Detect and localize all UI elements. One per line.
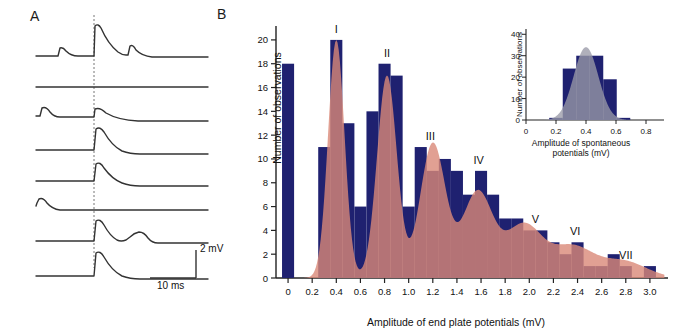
main-xtick-label: 3.0 [643, 286, 656, 297]
inset-xtick-label: 0.2 [550, 127, 562, 136]
main-xtick-label: 1.6 [474, 286, 487, 297]
main-ytick-label: 8 [263, 177, 268, 188]
inset-fit-curve [544, 47, 631, 120]
inset-xtick-label: 0.8 [640, 127, 652, 136]
main-xtick-label: 0.4 [330, 286, 343, 297]
inset-xtick-label: 0.6 [610, 127, 622, 136]
main-xtick-label: 0.8 [378, 286, 391, 297]
main-ytick-label: 2 [263, 249, 268, 260]
inset-xtick-label: 0 [524, 127, 529, 136]
scale-bar-group [150, 250, 196, 278]
main-xtick-label: 0.6 [354, 286, 367, 297]
main-xtick-label: 2.8 [619, 286, 632, 297]
main-ytick-label: 16 [257, 82, 268, 93]
scale-label-voltage: 2 mV [200, 243, 223, 254]
main-ytick-label: 0 [263, 273, 268, 284]
main-xtick-label: 0 [285, 286, 290, 297]
main-peak-label: V [532, 213, 540, 225]
main-ytick-label: 14 [257, 106, 268, 117]
main-xtick-label: 1.8 [499, 286, 512, 297]
main-xtick-label: 1.0 [402, 286, 415, 297]
main-ytick-label: 6 [263, 201, 268, 212]
inset-ytick-label: 10 [511, 95, 520, 104]
main-bar-failures [282, 64, 294, 278]
inset-xtick-label: 0.4 [580, 127, 592, 136]
panel-a-traces [18, 10, 228, 310]
inset-xaxis-title-line1: Amplitude of spontaneous [532, 138, 630, 148]
inset-histogram-svg: 01020304000.20.40.60.8 [504, 22, 669, 142]
inset-xaxis-title: Amplitude of spontaneous potentials (mV) [486, 138, 674, 158]
main-peak-label: I [335, 23, 338, 35]
main-xtick-label: 1.2 [426, 286, 439, 297]
main-peak-label: VI [570, 225, 580, 237]
main-xtick-label: 1.4 [450, 286, 463, 297]
trace-5 [36, 163, 208, 186]
trace-7 [36, 220, 208, 243]
main-peak-label: II [384, 47, 390, 59]
scale-label-time: 10 ms [157, 280, 184, 291]
main-xtick-label: 2.6 [595, 286, 608, 297]
main-ytick-label: 10 [257, 153, 268, 164]
main-yaxis-title: Number of observations [271, 18, 283, 198]
main-ytick-label: 20 [257, 34, 268, 45]
main-xtick-label: 2.2 [547, 286, 560, 297]
trace-3 [36, 108, 208, 122]
inset-ytick-label: 40 [511, 30, 520, 39]
main-xaxis-title: Amplitude of end plate potentials (mV) [246, 316, 666, 328]
inset-chart-area: Number of observations 01020304000.20.40… [492, 22, 672, 142]
main-ytick-label: 4 [263, 225, 268, 236]
trace-1 [36, 25, 208, 57]
main-peak-label: VII [619, 249, 632, 261]
inset-xaxis-title-line2: potentials (mV) [552, 148, 609, 158]
inset-ytick-label: 30 [511, 52, 520, 61]
main-xtick-label: 2.0 [523, 286, 536, 297]
trace-8 [36, 252, 208, 279]
main-xtick-label: 0.2 [306, 286, 319, 297]
inset-ytick-label: 0 [516, 116, 521, 125]
trace-6 [36, 199, 208, 211]
main-ytick-label: 18 [257, 58, 268, 69]
trace-4 [36, 128, 208, 154]
main-ytick-label: 12 [257, 130, 268, 141]
panel-b-letter: B [217, 6, 226, 22]
main-peak-label: III [426, 130, 435, 142]
main-xtick-label: 2.4 [571, 286, 584, 297]
inset-ytick-label: 20 [511, 73, 520, 82]
main-peak-label: IV [473, 154, 484, 166]
figure-root: A 2 mV 10 ms B [0, 0, 674, 335]
